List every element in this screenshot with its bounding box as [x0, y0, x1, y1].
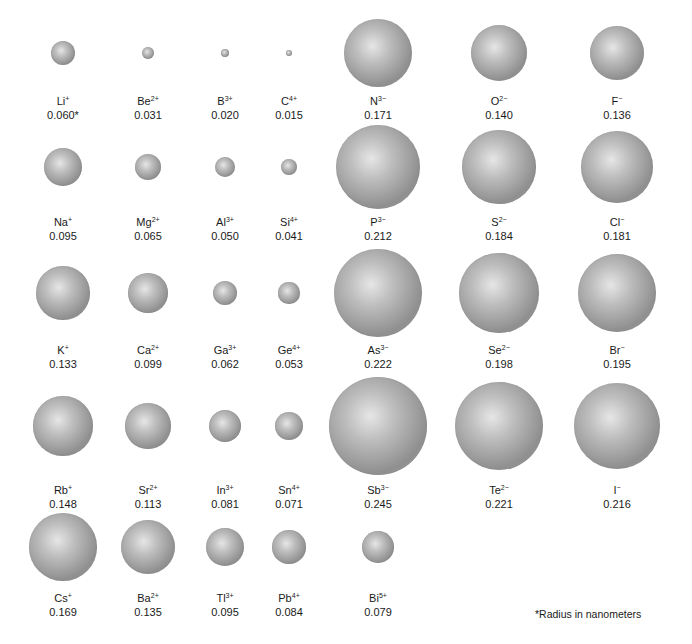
ion-radius-value: 0.195: [577, 358, 657, 371]
ion-sphere: [455, 382, 543, 470]
ion-charge: 2+: [151, 95, 159, 102]
ion-sphere: [471, 25, 527, 81]
ion-charge: +: [65, 344, 69, 351]
ion-charge: 2−: [499, 216, 507, 223]
ion-symbol: K+: [23, 344, 103, 357]
ion-radius-value: 0.198: [459, 358, 539, 371]
ion-radius-value: 0.065: [108, 230, 188, 243]
ion-charge: 3+: [226, 484, 234, 491]
ion-radius-value: 0.245: [338, 498, 418, 511]
ion-symbol: Ge4+: [249, 344, 329, 357]
ion-charge: 3+: [228, 344, 236, 351]
ion-symbol: P3−: [338, 216, 418, 229]
ion-radius-value: 0.031: [108, 109, 188, 122]
ion-radius-value: 0.212: [338, 230, 418, 243]
ion-charge: 3−: [381, 484, 389, 491]
ion-charge: 2+: [150, 484, 158, 491]
ion-radius-value: 0.171: [338, 109, 418, 122]
ion-charge: 2+: [151, 344, 159, 351]
ion-symbol: Br−: [577, 344, 657, 357]
footnote: *Radius in nanometers: [535, 608, 641, 620]
ion-sphere: [344, 19, 412, 87]
ion-symbol: F−: [577, 95, 657, 108]
ion-symbol: Si4+: [249, 216, 329, 229]
ion-sphere: [362, 531, 394, 563]
ion-symbol: Mg2+: [108, 216, 188, 229]
ion-symbol: Sr2+: [108, 484, 188, 497]
ion-symbol: Ca2+: [108, 344, 188, 357]
ion-symbol: Cs+: [23, 592, 103, 605]
ion-sphere: [215, 157, 235, 177]
ion-symbol: S2−: [459, 216, 539, 229]
ion-symbol: As3−: [338, 344, 418, 357]
ion-charge: 4+: [292, 592, 300, 599]
ion-sphere: [590, 26, 644, 80]
ion-charge: 5+: [379, 592, 387, 599]
ion-charge: −: [616, 484, 620, 491]
ion-charge: 3+: [226, 592, 234, 599]
ion-radius-value: 0.084: [249, 606, 329, 619]
ion-sphere: [36, 266, 89, 319]
ion-charge: −: [620, 344, 624, 351]
ion-charge: 2−: [501, 484, 509, 491]
ion-radius-value: 0.169: [23, 606, 103, 619]
ion-charge: +: [68, 592, 72, 599]
ion-radius-value: 0.041: [249, 230, 329, 243]
ion-sphere: [51, 41, 75, 65]
ion-sphere: [125, 403, 170, 448]
ion-sphere: [578, 254, 656, 332]
ion-sphere: [329, 377, 427, 475]
ion-symbol: Te2−: [459, 484, 539, 497]
ion-charge: 2+: [152, 216, 160, 223]
ion-radius-value: 0.140: [459, 109, 539, 122]
ion-radius-value: 0.079: [338, 606, 418, 619]
ion-sphere: [29, 513, 97, 581]
ion-radius-value: 0.216: [577, 498, 657, 511]
ion-radius-value: 0.184: [459, 230, 539, 243]
ion-sphere: [33, 396, 92, 455]
ion-radius-value: 0.015: [249, 109, 329, 122]
ion-charge: 3−: [378, 95, 386, 102]
ion-sphere: [128, 273, 168, 313]
ion-radius-value: 0.221: [459, 498, 539, 511]
ion-sphere: [142, 47, 154, 59]
ion-charge: 2+: [151, 592, 159, 599]
ion-radius-value: 0.148: [23, 498, 103, 511]
ion-symbol: Bi5+: [338, 592, 418, 605]
ion-sphere: [121, 520, 175, 574]
ion-charge: 2−: [502, 344, 510, 351]
ion-symbol: Be2+: [108, 95, 188, 108]
ion-sphere: [286, 50, 292, 56]
ion-radius-value: 0.095: [23, 230, 103, 243]
ion-charge: 4+: [292, 484, 300, 491]
ion-radius-value: 0.136: [577, 109, 657, 122]
ion-radius-value: 0.060*: [23, 109, 103, 122]
ion-sphere: [462, 130, 536, 204]
ion-radius-value: 0.099: [108, 358, 188, 371]
ion-symbol: Pb4+: [249, 592, 329, 605]
ion-sphere: [213, 281, 238, 306]
ion-symbol: Rb+: [23, 484, 103, 497]
ion-sphere: [209, 410, 241, 442]
ion-charge: 3−: [380, 344, 388, 351]
ion-sphere: [336, 125, 421, 210]
ion-radius-value: 0.133: [23, 358, 103, 371]
ion-symbol: Sb3−: [338, 484, 418, 497]
ion-radius-value: 0.222: [338, 358, 418, 371]
ion-sphere: [574, 383, 660, 469]
ion-charge: −: [618, 95, 622, 102]
ion-symbol: I−: [577, 484, 657, 497]
ion-charge: +: [68, 216, 72, 223]
ion-charge: 3−: [378, 216, 386, 223]
ion-sphere: [221, 49, 229, 57]
ion-sphere: [581, 131, 653, 203]
ion-charge: 3+: [225, 95, 233, 102]
ion-symbol: C4+: [249, 95, 329, 108]
ion-symbol: Ba2+: [108, 592, 188, 605]
ion-sphere: [278, 282, 299, 303]
ion-charge: 2−: [499, 95, 507, 102]
ion-charge: +: [68, 484, 72, 491]
ion-sphere: [206, 528, 244, 566]
ion-charge: 4+: [289, 95, 297, 102]
ion-sphere: [272, 530, 306, 564]
